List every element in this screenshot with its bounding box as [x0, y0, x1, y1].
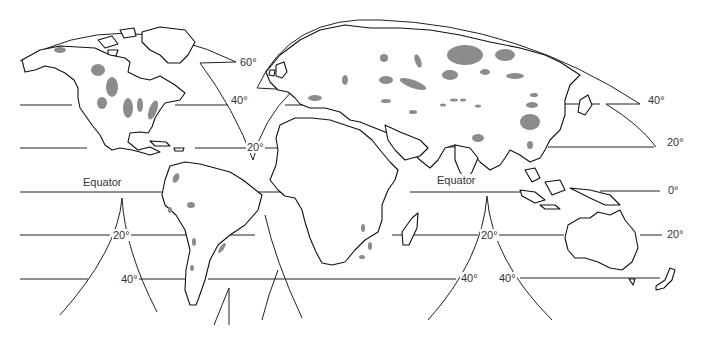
latitude-label-60n: 60° [239, 56, 258, 68]
world-map [0, 0, 702, 340]
australia [565, 210, 638, 270]
latitude-label-40s-center-right: 40° [498, 272, 517, 284]
latitude-label-20n-right: 20° [666, 136, 685, 148]
south-america [162, 162, 262, 305]
latitude-label-40s-center-left: 40° [460, 272, 479, 284]
latitude-label-40n-right: 40° [647, 94, 666, 106]
latitude-label-0: 0° [667, 184, 680, 196]
latitude-label-20s-right: 20° [666, 228, 685, 240]
greenland [142, 27, 195, 63]
latitude-label-40s-left: 40° [120, 273, 139, 285]
latitude-label-20s-center: 20° [480, 229, 499, 241]
latitude-label-20n: 20° [246, 141, 265, 153]
latitude-label-20s-left: 20° [112, 229, 131, 241]
africa [270, 118, 398, 265]
latitude-label-40n: 40° [230, 94, 249, 106]
equator-label-left: Equator [82, 176, 123, 188]
equator-label-right: Equator [436, 174, 477, 186]
new-zealand [656, 268, 675, 290]
landmasses [22, 25, 675, 305]
madagascar [402, 213, 418, 245]
